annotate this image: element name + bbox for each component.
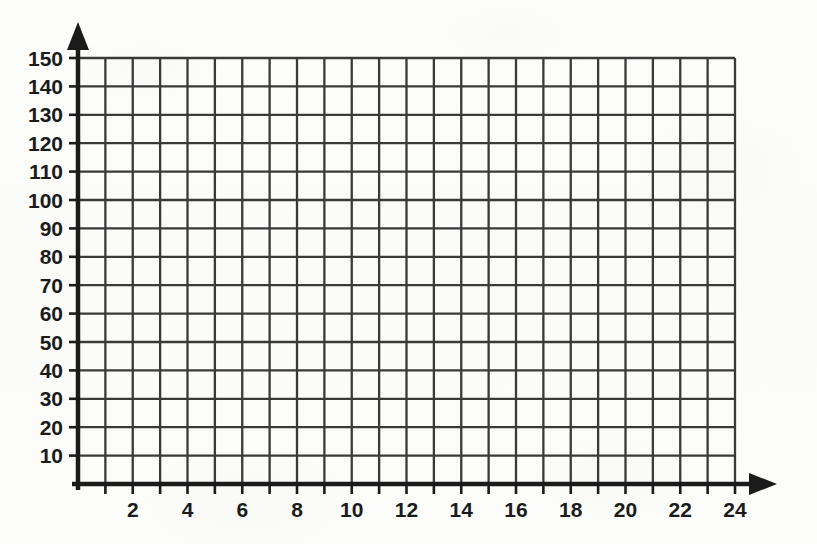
y-axis-tick-label: 120 — [28, 132, 63, 155]
y-axis-tick-label: 110 — [29, 160, 63, 183]
y-axis-tick-label: 20 — [40, 416, 63, 439]
y-axis-tick-label: 150 — [28, 47, 63, 70]
x-axis-tick-label: 18 — [559, 498, 583, 521]
x-axis-tick-label: 10 — [340, 498, 363, 521]
y-axis-tick-label: 100 — [28, 189, 63, 212]
y-axis-arrow-icon — [67, 22, 89, 50]
x-axis-tick-label: 6 — [236, 498, 248, 521]
y-axis-tick-label: 90 — [40, 217, 63, 240]
grid-lines — [78, 58, 735, 484]
axis-ticks — [69, 58, 735, 494]
y-axis-tick-labels: 102030405060708090100110120130140150 — [28, 47, 63, 468]
x-axis-arrow-icon — [749, 473, 777, 495]
x-axis-tick-label: 2 — [127, 498, 139, 521]
grid-vertical-lines — [78, 58, 735, 484]
x-axis-tick-label: 16 — [504, 498, 527, 521]
axes — [67, 22, 777, 495]
x-axis-tick-label: 14 — [450, 498, 474, 521]
y-axis-tick-label: 10 — [40, 444, 63, 467]
y-axis-tick-label: 50 — [40, 331, 63, 354]
y-axis-tick-label: 80 — [40, 245, 63, 268]
x-axis-tick-label: 22 — [669, 498, 692, 521]
y-axis-tick-label: 140 — [28, 75, 63, 98]
y-axis-tick-label: 130 — [28, 103, 63, 126]
x-axis-tick-labels: 24681012141618202224 — [127, 498, 747, 521]
y-axis-tick-label: 60 — [40, 302, 63, 325]
y-axis-tick-label: 40 — [40, 359, 63, 382]
graph-paper-figure: 24681012141618202224 1020304050607080901… — [0, 0, 817, 544]
x-axis-tick-label: 12 — [395, 498, 418, 521]
x-axis-tick-label: 24 — [723, 498, 747, 521]
x-axis-tick-label: 8 — [291, 498, 303, 521]
x-axis-tick-label: 4 — [182, 498, 194, 521]
y-axis-tick-label: 30 — [40, 387, 63, 410]
coordinate-grid-plot: 24681012141618202224 1020304050607080901… — [0, 0, 817, 544]
x-axis-tick-label: 20 — [614, 498, 637, 521]
y-axis-tick-label: 70 — [40, 274, 63, 297]
